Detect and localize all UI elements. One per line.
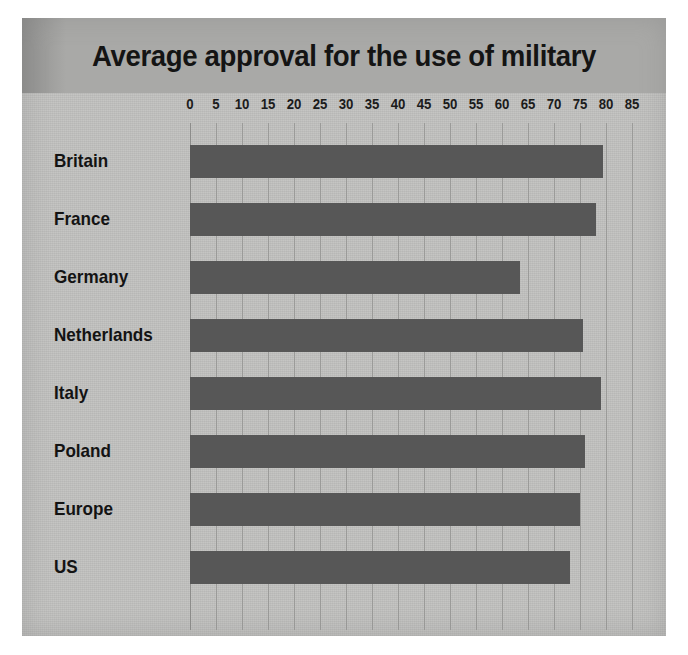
x-tick-label-80: 80: [599, 95, 614, 112]
x-tick-label-0: 0: [186, 95, 193, 112]
x-tick-label-50: 50: [443, 95, 458, 112]
bar-italy: [190, 377, 601, 410]
x-axis-tick-labels: 0510152025303540455055606570758085: [22, 93, 666, 117]
x-tick-label-85: 85: [625, 95, 640, 112]
x-tick-label-10: 10: [235, 95, 250, 112]
bar-us: [190, 551, 570, 584]
x-tick-label-30: 30: [339, 95, 354, 112]
bar-series: [22, 123, 666, 630]
x-tick-label-5: 5: [212, 95, 219, 112]
x-tick-label-75: 75: [573, 95, 588, 112]
x-tick-label-65: 65: [521, 95, 536, 112]
x-tick-label-70: 70: [547, 95, 562, 112]
x-tick-label-35: 35: [365, 95, 380, 112]
chart-panel: Average approval for the use of military…: [22, 18, 666, 636]
chart-title: Average approval for the use of military: [48, 39, 640, 73]
chart-title-band: Average approval for the use of military: [22, 18, 666, 93]
bar-britain: [190, 145, 603, 178]
x-tick-label-15: 15: [261, 95, 276, 112]
plot-area: 0510152025303540455055606570758085 Brita…: [22, 93, 666, 636]
bar-poland: [190, 435, 585, 468]
bar-europe: [190, 493, 580, 526]
x-tick-label-40: 40: [391, 95, 406, 112]
chart-figure: Average approval for the use of military…: [0, 0, 688, 655]
x-tick-label-55: 55: [469, 95, 484, 112]
x-tick-label-25: 25: [313, 95, 328, 112]
x-tick-label-45: 45: [417, 95, 432, 112]
x-tick-label-20: 20: [287, 95, 302, 112]
bar-germany: [190, 261, 520, 294]
bar-france: [190, 203, 596, 236]
bar-netherlands: [190, 319, 583, 352]
x-tick-label-60: 60: [495, 95, 510, 112]
